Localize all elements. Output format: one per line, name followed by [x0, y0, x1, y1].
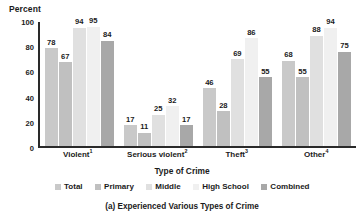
bar-value-label: 25	[154, 104, 162, 113]
x-axis-label-other: Other4	[277, 150, 357, 159]
legend-item-primary[interactable]: Primary	[95, 182, 134, 191]
bar-value-label: 11	[140, 122, 148, 131]
bar-high-school[interactable]	[245, 38, 258, 146]
bar-value-label: 46	[205, 78, 213, 87]
y-axis-tick-label: 100	[21, 18, 34, 27]
y-axis-tick-label: 40	[26, 93, 34, 102]
bar-slot: 68	[282, 22, 295, 146]
legend-label: Total	[64, 182, 83, 191]
legend-swatch-icon	[261, 184, 267, 190]
x-axis-label-violent: Violent1	[38, 150, 118, 159]
x-axis-title: Type of Crime	[0, 166, 364, 176]
bar-group: 1711253217	[119, 22, 198, 146]
bar-high-school[interactable]	[87, 27, 100, 147]
bar-slot: 94	[324, 22, 337, 146]
legend-item-high-school[interactable]: High School	[193, 182, 249, 191]
legend-item-middle[interactable]: Middle	[146, 182, 181, 191]
bar-slot: 88	[310, 22, 323, 146]
bar-slot: 32	[166, 22, 179, 146]
bar-slot: 55	[296, 22, 309, 146]
bar-slot: 55	[259, 22, 272, 146]
bar-slot: 75	[338, 22, 351, 146]
bar-slot: 28	[217, 22, 230, 146]
bar-slot: 86	[245, 22, 258, 146]
plot-area: 100806040200 786794958417112532174628698…	[38, 22, 356, 148]
bar-value-label: 75	[340, 41, 348, 50]
bar-slot: 11	[138, 22, 151, 146]
x-axis-line	[38, 146, 356, 148]
bar-combined[interactable]	[259, 77, 272, 146]
bar-primary[interactable]	[296, 77, 309, 146]
bar-slot: 17	[180, 22, 193, 146]
y-axis-title: Percent	[9, 4, 41, 14]
legend-item-combined[interactable]: Combined	[261, 182, 310, 191]
bar-slot: 95	[87, 22, 100, 146]
x-axis-label-serious-violent: Serious violent2	[118, 150, 198, 159]
bar-combined[interactable]	[101, 41, 114, 147]
y-axis-tick-label: 20	[26, 118, 34, 127]
bar-primary[interactable]	[138, 133, 151, 147]
bar-slot: 17	[124, 22, 137, 146]
bar-slot: 25	[152, 22, 165, 146]
legend-label: Combined	[270, 182, 309, 191]
bar-high-school[interactable]	[324, 28, 337, 146]
bar-value-label: 88	[312, 25, 320, 34]
bar-group: 6855889475	[277, 22, 356, 146]
legend-label: Middle	[155, 182, 180, 191]
bar-combined[interactable]	[180, 125, 193, 146]
bar-value-label: 17	[182, 115, 190, 124]
legend-swatch-icon	[193, 184, 199, 190]
bar-primary[interactable]	[217, 111, 230, 146]
bar-value-label: 69	[233, 49, 241, 58]
bar-middle[interactable]	[231, 59, 244, 146]
chart-figure: Percent 100806040200 7867949584171125321…	[0, 0, 364, 222]
bar-value-label: 95	[89, 16, 97, 25]
bar-combined[interactable]	[338, 52, 351, 147]
bar-slot: 46	[203, 22, 216, 146]
legend-item-total[interactable]: Total	[55, 182, 83, 191]
bar-value-label: 78	[47, 38, 55, 47]
bar-middle[interactable]	[310, 36, 323, 147]
bar-value-label: 55	[261, 67, 269, 76]
bar-value-label: 17	[126, 115, 134, 124]
y-axis-tick-label: 80	[26, 43, 34, 52]
bar-slot: 69	[231, 22, 244, 146]
bar-total[interactable]	[45, 48, 58, 146]
figure-caption: (a) Experienced Various Types of Crime	[0, 202, 364, 211]
bar-slot: 94	[73, 22, 86, 146]
bar-group: 4628698655	[198, 22, 277, 146]
bar-total[interactable]	[124, 125, 137, 146]
bar-total[interactable]	[282, 61, 295, 147]
legend-label: High School	[202, 182, 249, 191]
bar-value-label: 94	[75, 17, 83, 26]
bar-group: 7867949584	[40, 22, 119, 146]
x-axis-label-theft: Theft3	[197, 150, 277, 159]
legend-swatch-icon	[146, 184, 152, 190]
bar-slot: 84	[101, 22, 114, 146]
bar-value-label: 28	[219, 101, 227, 110]
bar-value-label: 86	[247, 28, 255, 37]
bar-slot: 67	[59, 22, 72, 146]
bar-groups: 7867949584171125321746286986556855889475	[40, 22, 356, 146]
bar-high-school[interactable]	[166, 106, 179, 146]
chart-legend: TotalPrimaryMiddleHigh SchoolCombined	[0, 182, 364, 191]
bar-value-label: 68	[284, 50, 292, 59]
legend-swatch-icon	[55, 184, 61, 190]
bar-value-label: 94	[326, 17, 334, 26]
x-axis-category-labels: Violent1Serious violent2Theft3Other4	[38, 150, 356, 159]
bar-slot: 78	[45, 22, 58, 146]
bar-middle[interactable]	[73, 28, 86, 146]
bar-value-label: 84	[103, 30, 111, 39]
bar-middle[interactable]	[152, 115, 165, 147]
bar-primary[interactable]	[59, 62, 72, 146]
legend-swatch-icon	[95, 184, 101, 190]
bar-total[interactable]	[203, 88, 216, 146]
y-axis-tick-label: 60	[26, 68, 34, 77]
bar-value-label: 55	[298, 67, 306, 76]
y-axis-tick-label: 0	[30, 144, 34, 153]
bar-value-label: 32	[168, 96, 176, 105]
bar-value-label: 67	[61, 52, 69, 61]
legend-label: Primary	[104, 182, 134, 191]
